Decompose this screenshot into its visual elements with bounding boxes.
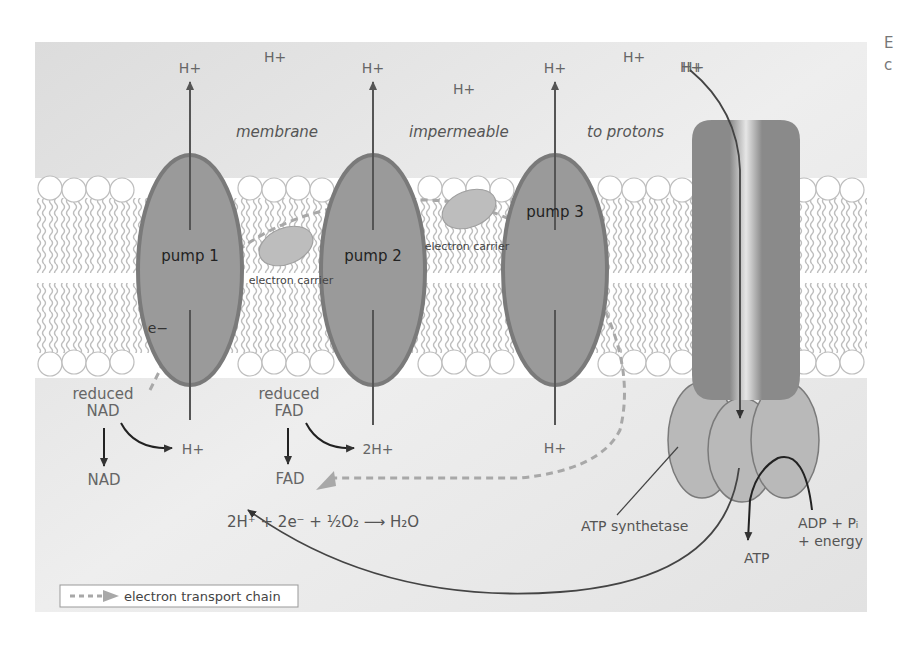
etc-diagram: membrane impermeable to protons H+ H+ H+… <box>0 0 905 646</box>
atp-product: ATP <box>744 550 769 566</box>
pump-top-proton: H+ <box>179 60 201 76</box>
proton-label: H+ <box>623 49 645 65</box>
side-text: c <box>884 56 892 74</box>
caption-membrane: membrane <box>236 123 318 141</box>
pump-label: pump 3 <box>526 203 583 221</box>
caption-to-protons: to protons <box>587 123 664 141</box>
pump-top-proton: H+ <box>544 60 566 76</box>
pump-bottom-proton: H+ <box>544 440 566 456</box>
svg-text:FAD: FAD <box>274 402 303 420</box>
atp-input-line1: ADP + Pᵢ <box>798 515 858 531</box>
pump-label: pump 1 <box>161 247 218 265</box>
water-equation: 2H⁺ + 2e⁻ + ½O₂ ⟶ H₂O <box>227 513 419 531</box>
caption-impermeable: impermeable <box>409 123 509 141</box>
atp-input-line2: + energy <box>798 533 863 549</box>
legend-label: electron transport chain <box>124 589 281 604</box>
nad-proton: H+ <box>182 441 204 457</box>
fad-product: FAD <box>275 470 304 488</box>
svg-text:reduced: reduced <box>72 385 133 403</box>
carrier-label: electron carrier <box>425 240 510 253</box>
carrier-label: electron carrier <box>249 274 334 287</box>
proton-label: H+ <box>264 49 286 65</box>
side-text: E <box>884 34 893 52</box>
legend: electron transport chain <box>60 585 298 607</box>
atp-inflow-proton: H+ <box>680 59 702 75</box>
fad-proton: 2H+ <box>362 441 393 457</box>
diagram-stage: membrane impermeable to protons H+ H+ H+… <box>0 0 905 646</box>
svg-text:reduced: reduced <box>258 385 319 403</box>
pump-label: pump 2 <box>344 247 401 265</box>
svg-text:NAD: NAD <box>86 402 119 420</box>
proton-label: H+ <box>453 81 475 97</box>
pump-top-proton: H+ <box>362 60 384 76</box>
atp-synthetase-label: ATP synthetase <box>581 518 688 534</box>
nad-product: NAD <box>87 471 120 489</box>
electron-label: e− <box>148 320 168 336</box>
